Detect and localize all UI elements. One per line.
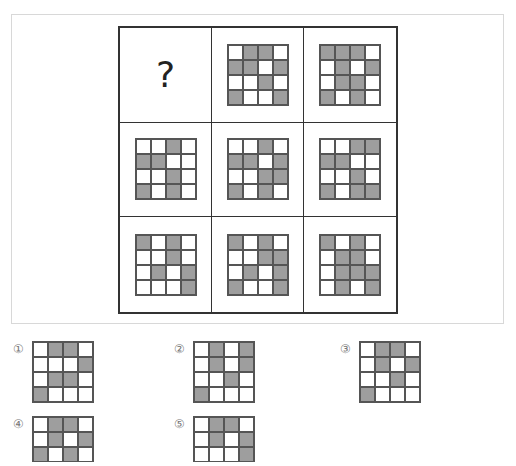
filled-square (63, 417, 78, 432)
filled-square (273, 90, 288, 105)
empty-square (375, 372, 390, 387)
filled-square (273, 154, 288, 169)
pattern-matrix: ? (118, 26, 398, 314)
empty-square (239, 387, 254, 402)
filled-square (320, 235, 335, 250)
option-2-label: ② (174, 342, 185, 356)
filled-square (136, 154, 151, 169)
filled-square (78, 432, 93, 447)
filled-square (350, 45, 365, 60)
filled-square (228, 280, 243, 295)
filled-square (151, 265, 166, 280)
filled-square (335, 60, 350, 75)
empty-square (78, 387, 93, 402)
filled-square (350, 169, 365, 184)
filled-square (405, 357, 420, 372)
filled-square (63, 372, 78, 387)
empty-square (258, 60, 273, 75)
empty-square (181, 184, 196, 199)
empty-square (151, 250, 166, 265)
empty-square (63, 387, 78, 402)
empty-square (365, 90, 380, 105)
filled-square (166, 169, 181, 184)
empty-square (181, 235, 196, 250)
filled-square (375, 357, 390, 372)
filled-square (350, 75, 365, 90)
option-4[interactable]: ④ (13, 416, 94, 462)
option-3[interactable]: ③ (340, 341, 421, 403)
filled-square (350, 139, 365, 154)
empty-square (365, 235, 380, 250)
empty-square (360, 342, 375, 357)
empty-square (350, 154, 365, 169)
empty-square (209, 387, 224, 402)
filled-square (390, 372, 405, 387)
filled-square (224, 417, 239, 432)
empty-square (228, 169, 243, 184)
filled-square (239, 432, 254, 447)
filled-square (320, 90, 335, 105)
empty-square (273, 75, 288, 90)
empty-square (33, 432, 48, 447)
filled-square (239, 357, 254, 372)
option-2[interactable]: ② (174, 341, 255, 403)
empty-square (48, 447, 63, 462)
filled-square (166, 235, 181, 250)
empty-square (78, 342, 93, 357)
empty-square (365, 250, 380, 265)
filled-square (209, 342, 224, 357)
empty-square (258, 265, 273, 280)
filled-square (335, 75, 350, 90)
filled-square (243, 45, 258, 60)
empty-square (335, 90, 350, 105)
empty-square (365, 75, 380, 90)
option-1[interactable]: ① (13, 341, 94, 403)
empty-square (320, 75, 335, 90)
option-5-pattern (193, 416, 255, 462)
filled-square (390, 342, 405, 357)
filled-square (239, 447, 254, 462)
filled-square (243, 60, 258, 75)
option-5[interactable]: ⑤ (174, 416, 255, 462)
filled-square (350, 265, 365, 280)
empty-square (166, 154, 181, 169)
empty-square (273, 235, 288, 250)
matrix-cell-r2-c1 (120, 123, 212, 218)
empty-square (194, 342, 209, 357)
cell-pattern (227, 138, 289, 200)
filled-square (258, 45, 273, 60)
cell-pattern (227, 44, 289, 106)
cell-pattern (319, 234, 381, 296)
filled-square (151, 154, 166, 169)
option-2-pattern (193, 341, 255, 403)
filled-square (258, 235, 273, 250)
empty-square (273, 184, 288, 199)
filled-square (365, 280, 380, 295)
filled-square (166, 184, 181, 199)
filled-square (258, 169, 273, 184)
empty-square (78, 447, 93, 462)
empty-square (224, 447, 239, 462)
matrix-cell-r3-c2 (212, 217, 304, 312)
empty-square (320, 169, 335, 184)
empty-square (320, 139, 335, 154)
empty-square (181, 169, 196, 184)
empty-square (228, 139, 243, 154)
empty-square (33, 342, 48, 357)
filled-square (194, 387, 209, 402)
filled-square (209, 417, 224, 432)
empty-square (228, 45, 243, 60)
empty-square (335, 169, 350, 184)
filled-square (273, 265, 288, 280)
filled-square (335, 250, 350, 265)
empty-square (136, 250, 151, 265)
filled-square (228, 60, 243, 75)
filled-square (48, 432, 63, 447)
empty-square (239, 417, 254, 432)
empty-square (365, 154, 380, 169)
filled-square (350, 90, 365, 105)
empty-square (33, 417, 48, 432)
matrix-cell-r3-c1 (120, 217, 212, 312)
filled-square (78, 357, 93, 372)
filled-square (335, 280, 350, 295)
